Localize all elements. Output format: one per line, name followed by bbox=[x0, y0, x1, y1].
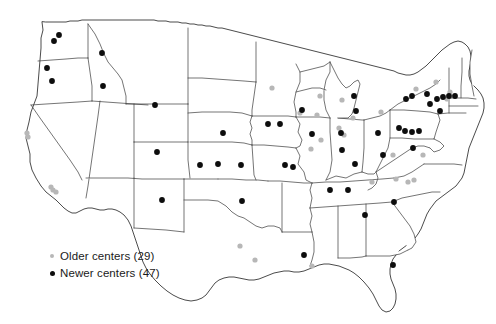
older-center-dot bbox=[339, 97, 344, 102]
newer-center-dot bbox=[197, 162, 203, 168]
newer-center-dot bbox=[410, 145, 416, 151]
newer-center-dot bbox=[424, 91, 430, 97]
newer-center-dot bbox=[345, 187, 351, 193]
legend-label-older: Older centers (29) bbox=[60, 249, 154, 263]
newer-center-dot bbox=[299, 107, 305, 113]
newer-center-dot bbox=[338, 130, 344, 136]
older-center-dot bbox=[405, 179, 410, 184]
newer-center-dot bbox=[282, 162, 288, 168]
newer-center-dot bbox=[239, 198, 245, 204]
older-center-dot bbox=[317, 93, 322, 98]
newer-center-dot bbox=[391, 199, 397, 205]
newer-center-dot bbox=[215, 161, 221, 167]
newer-center-dot bbox=[380, 152, 386, 158]
newer-center-dot bbox=[427, 101, 433, 107]
older-center-dot bbox=[393, 176, 398, 181]
older-center-dot bbox=[336, 125, 341, 130]
newer-center-dot bbox=[434, 96, 440, 102]
newer-center-dot bbox=[409, 129, 415, 135]
newer-center-dot bbox=[403, 96, 409, 102]
older-center-dot bbox=[252, 257, 257, 262]
newer-center-dot bbox=[277, 121, 283, 127]
newer-center-dot bbox=[152, 102, 158, 108]
older-center-dot bbox=[369, 179, 374, 184]
newer-center-dot bbox=[301, 252, 307, 258]
older-center-dot bbox=[350, 115, 355, 120]
older-center-dot bbox=[390, 152, 395, 157]
newer-center-dot bbox=[352, 161, 358, 167]
newer-center-dot bbox=[154, 149, 160, 155]
newer-center-dot bbox=[51, 38, 57, 44]
newer-center-dot bbox=[238, 162, 244, 168]
older-center-dot bbox=[433, 79, 438, 84]
newer-center-dot bbox=[49, 78, 55, 84]
newer-center-dot bbox=[353, 108, 359, 114]
newer-center-dot bbox=[452, 93, 458, 99]
older-center-dot bbox=[314, 112, 319, 117]
older-center-dot bbox=[309, 263, 314, 268]
older-center-dot bbox=[318, 137, 323, 142]
older-center-dot bbox=[420, 152, 425, 157]
newer-center-dot bbox=[437, 108, 443, 114]
newer-center-dot bbox=[44, 65, 50, 71]
newer-center-dot bbox=[390, 262, 396, 268]
map-legend: Older centers (29) Newer centers (47) bbox=[44, 248, 214, 282]
legend-label-newer: Newer centers (47) bbox=[60, 266, 160, 280]
newer-center-dot bbox=[290, 164, 296, 170]
older-center-dot bbox=[413, 86, 418, 91]
us-distribution-map: Older centers (29) Newer centers (47) bbox=[0, 0, 496, 324]
newer-center-dot bbox=[56, 32, 62, 38]
newer-center-dot bbox=[440, 94, 446, 100]
newer-center-dot bbox=[402, 128, 408, 134]
older-center-dot bbox=[53, 189, 58, 194]
newer-center-dot bbox=[416, 128, 422, 134]
newer-center-dot bbox=[339, 147, 345, 153]
older-center-dot bbox=[378, 109, 383, 114]
newer-center-dot bbox=[327, 187, 333, 193]
older-center-dot bbox=[269, 85, 274, 90]
newer-center-dot bbox=[220, 130, 226, 136]
newer-center-dot bbox=[309, 131, 315, 137]
older-center-dot bbox=[25, 134, 30, 139]
older-center-dot bbox=[308, 146, 313, 151]
newer-center-dot bbox=[100, 83, 106, 89]
older-center-dot-icon bbox=[44, 254, 60, 259]
newer-center-dot-icon bbox=[44, 271, 60, 276]
newer-center-dot bbox=[99, 50, 105, 56]
legend-item-newer: Newer centers (47) bbox=[44, 265, 214, 281]
newer-center-dot bbox=[159, 197, 165, 203]
older-center-dot bbox=[237, 243, 242, 248]
newer-center-dot bbox=[396, 125, 402, 131]
older-center-dot bbox=[411, 177, 416, 182]
newer-center-dot bbox=[409, 93, 415, 99]
newer-center-dot bbox=[446, 93, 452, 99]
newer-center-dot bbox=[265, 121, 271, 127]
legend-item-older: Older centers (29) bbox=[44, 248, 214, 264]
newer-center-dot bbox=[351, 93, 357, 99]
newer-center-dot bbox=[375, 130, 381, 136]
newer-center-dot bbox=[362, 212, 368, 218]
